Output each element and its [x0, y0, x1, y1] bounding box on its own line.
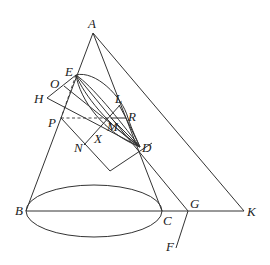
- cone-section-diagram: A E O H L R P M X N D B C G K F: [0, 0, 270, 265]
- label-N: N: [73, 140, 84, 155]
- label-C: C: [163, 213, 172, 228]
- label-R: R: [127, 109, 136, 124]
- line-LR: [119, 105, 126, 118]
- label-K: K: [246, 204, 257, 219]
- line-GF: [176, 211, 188, 248]
- label-F: F: [165, 239, 175, 254]
- label-E: E: [64, 64, 73, 79]
- label-O: O: [50, 76, 60, 91]
- line-P-bottom: [61, 118, 110, 171]
- cone-side-AB: [26, 33, 93, 211]
- label-G: G: [190, 196, 200, 211]
- label-A: A: [87, 16, 96, 31]
- label-L: L: [114, 91, 122, 106]
- label-D: D: [141, 140, 152, 155]
- label-P: P: [47, 115, 56, 130]
- label-M: M: [106, 119, 119, 134]
- label-H: H: [33, 91, 44, 106]
- label-X: X: [93, 131, 103, 146]
- label-B: B: [15, 203, 23, 218]
